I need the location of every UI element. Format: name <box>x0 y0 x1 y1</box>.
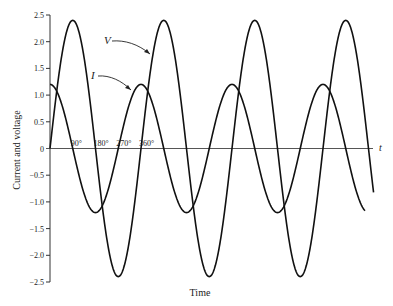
y-tick-label: −1.0 <box>29 198 44 207</box>
y-axis-title: Current and voltage <box>11 110 22 190</box>
y-tick-label: 0.5 <box>34 118 44 127</box>
v-curve-label: V <box>104 34 112 46</box>
y-tick-label: −2.5 <box>29 278 44 287</box>
y-tick-label: −0.5 <box>29 171 44 180</box>
x-axis-title: Time <box>190 287 211 298</box>
y-tick-label: −2.0 <box>29 251 44 260</box>
y-tick-label: 1.0 <box>34 91 44 100</box>
y-tick-label: 0 <box>40 145 44 154</box>
y-tick-label: 2.0 <box>34 38 44 47</box>
t-axis-label: t <box>379 142 382 153</box>
i-curve-label: I <box>90 69 96 81</box>
y-tick-label: 1.5 <box>34 64 44 73</box>
chart: −2.5−2.0−1.5−1.0−0.500.51.01.52.02.5 90°… <box>0 0 393 306</box>
annotations: V I <box>90 34 150 90</box>
y-tick-label: 2.5 <box>34 11 44 20</box>
y-tick-label: −1.5 <box>29 225 44 234</box>
